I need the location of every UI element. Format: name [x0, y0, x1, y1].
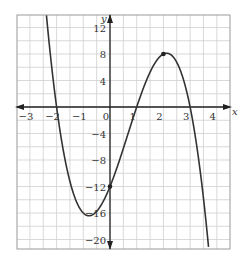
x-tick-label: 3 [183, 111, 189, 122]
grid [17, 15, 230, 249]
y-tick-label: −8 [91, 155, 106, 166]
tick-labels: −3−2−1012341284−4−8−12−16−20 [19, 23, 216, 246]
y-tick-label: 12 [93, 23, 106, 34]
x-axis-label: x [232, 106, 238, 117]
y-tick-label: 8 [100, 49, 106, 60]
y-axis-label: y [100, 13, 107, 24]
y-tick-label: −12 [85, 182, 106, 193]
x-tick-label: −3 [19, 111, 34, 122]
cubic-function-graph: −3−2−1012341284−4−8−12−16−20 x y [0, 0, 244, 261]
x-tick-label: 2 [156, 111, 162, 122]
marked-point [108, 184, 113, 189]
y-tick-label: −20 [85, 235, 106, 246]
x-tick-label: 0 [103, 111, 109, 122]
y-tick-label: 4 [100, 76, 106, 87]
x-tick-label: −1 [72, 111, 87, 122]
marked-point [161, 52, 166, 57]
cubic-curve [46, 15, 208, 247]
x-tick-label: 4 [210, 111, 216, 122]
y-tick-label: −4 [91, 129, 106, 140]
